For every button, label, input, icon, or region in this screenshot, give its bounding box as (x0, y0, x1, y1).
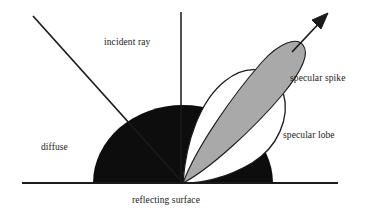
label-specular-spike: specular spike (290, 74, 345, 84)
reflected-ray-arrowhead (312, 13, 328, 29)
label-incident-ray: incident ray (104, 38, 150, 48)
label-reflecting-surface: reflecting surface (132, 196, 200, 206)
reflection-model-figure: incident ray diffuse specular spike spec… (0, 0, 371, 216)
label-diffuse: diffuse (41, 143, 68, 153)
label-specular-lobe: specular lobe (283, 131, 335, 141)
figure-canvas (0, 0, 371, 216)
